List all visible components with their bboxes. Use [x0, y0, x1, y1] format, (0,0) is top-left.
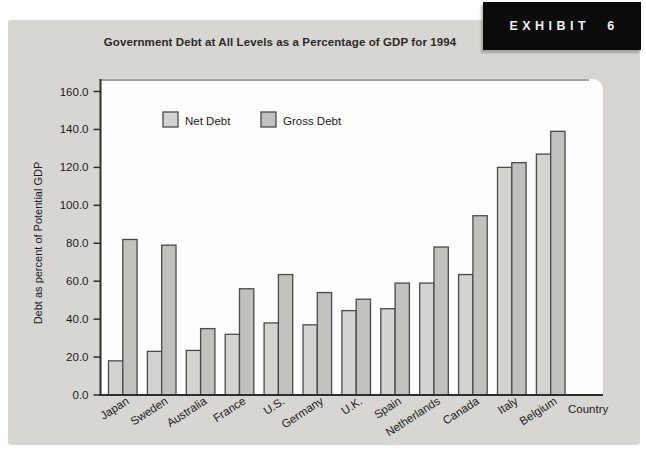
- legend-gross-swatch: [261, 112, 276, 127]
- bar-gross-belgium: [551, 131, 565, 395]
- x-category-label-belgium: Belgium: [517, 395, 558, 428]
- x-category-label-sweden: Sweden: [128, 395, 169, 428]
- bar-net-canada: [459, 275, 473, 395]
- x-category-label-italy: Italy: [496, 394, 520, 416]
- bar-gross-netherlands: [434, 247, 448, 395]
- bar-net-u-s: [264, 323, 278, 395]
- legend-net-label: Net Debt: [185, 115, 231, 127]
- bar-net-italy: [498, 167, 512, 395]
- legend-gross-label: Gross Debt: [283, 115, 342, 127]
- bar-net-u-k: [342, 311, 356, 395]
- y-tick-label: 20.0: [66, 351, 88, 363]
- legend-net-swatch: [163, 112, 178, 127]
- x-category-label-france: France: [211, 395, 248, 425]
- x-category-label-japan: Japan: [98, 395, 131, 422]
- bar-net-japan: [109, 361, 123, 395]
- bar-net-australia: [186, 350, 200, 395]
- bar-gross-canada: [473, 216, 487, 395]
- y-tick-label: 80.0: [66, 237, 88, 249]
- exhibit-label: EXHIBIT 6: [505, 19, 618, 33]
- x-category-label-germany: Germany: [279, 394, 325, 430]
- y-tick-label: 140.0: [60, 123, 89, 135]
- bar-net-netherlands: [420, 283, 434, 395]
- exhibit-badge: EXHIBIT 6: [483, 2, 641, 50]
- x-category-label-canada: Canada: [441, 394, 482, 426]
- bar-gross-germany: [317, 293, 331, 395]
- x-category-label-u-k: U.K.: [339, 395, 364, 417]
- bar-net-germany: [303, 325, 317, 395]
- exhibit-page: Government Debt at All Levels as a Perce…: [0, 0, 646, 458]
- y-tick-label: 100.0: [60, 199, 89, 211]
- bar-gross-australia: [201, 329, 215, 395]
- x-axis-title: Country: [568, 403, 609, 415]
- y-tick-label: 40.0: [66, 313, 88, 325]
- y-axis-title: Debt as percent of Potential GDP: [32, 162, 44, 325]
- bar-gross-u-k: [356, 299, 370, 395]
- bar-net-belgium: [536, 154, 550, 395]
- bar-gross-sweden: [162, 245, 176, 395]
- bar-gross-u-s: [278, 275, 292, 395]
- y-tick-label: 60.0: [66, 275, 88, 287]
- bar-net-france: [225, 334, 239, 395]
- x-category-label-u-s: U.S.: [261, 395, 286, 417]
- bar-gross-japan: [123, 239, 137, 395]
- x-category-label-australia: Australia: [165, 394, 210, 429]
- bar-net-spain: [381, 309, 395, 395]
- bar-gross-spain: [395, 283, 409, 395]
- bar-chart: 0.020.040.060.080.0100.0120.0140.0160.0J…: [0, 0, 646, 458]
- bar-gross-italy: [512, 163, 526, 395]
- bar-net-sweden: [147, 351, 161, 395]
- y-tick-label: 0.0: [73, 389, 89, 401]
- x-category-label-spain: Spain: [372, 395, 403, 421]
- y-tick-label: 160.0: [60, 86, 89, 98]
- bar-gross-france: [240, 289, 254, 395]
- y-tick-label: 120.0: [60, 161, 89, 173]
